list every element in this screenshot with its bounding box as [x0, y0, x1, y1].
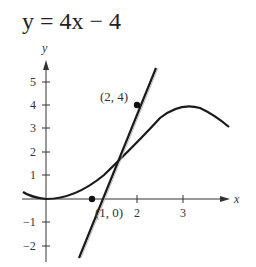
y-tick-neg2: −2: [23, 239, 36, 253]
point-2-4: [134, 102, 140, 108]
point-label-1-0: (1, 0): [95, 205, 123, 220]
x-tick-2: 2: [134, 206, 140, 220]
y-tick-1: 1: [30, 168, 36, 182]
x-axis-arrow-icon: [220, 196, 230, 202]
x-axis-label: x: [233, 192, 240, 206]
y-axis-arrow-icon: [43, 60, 49, 70]
point-1-0: [89, 196, 95, 202]
y-tick-3: 3: [30, 121, 36, 135]
y-tick-neg1: −1: [23, 215, 36, 229]
x-tick-3: 3: [180, 206, 186, 220]
graph: y x 5 4 3 2 1 −1 −2 2 3 (2, 4) (1, 0): [0, 0, 256, 267]
curve: [23, 106, 229, 199]
y-tick-5: 5: [30, 75, 36, 89]
y-axis-label: y: [41, 41, 48, 55]
y-tick-2: 2: [30, 145, 36, 159]
point-label-2-4: (2, 4): [100, 89, 128, 104]
y-tick-4: 4: [30, 98, 36, 112]
